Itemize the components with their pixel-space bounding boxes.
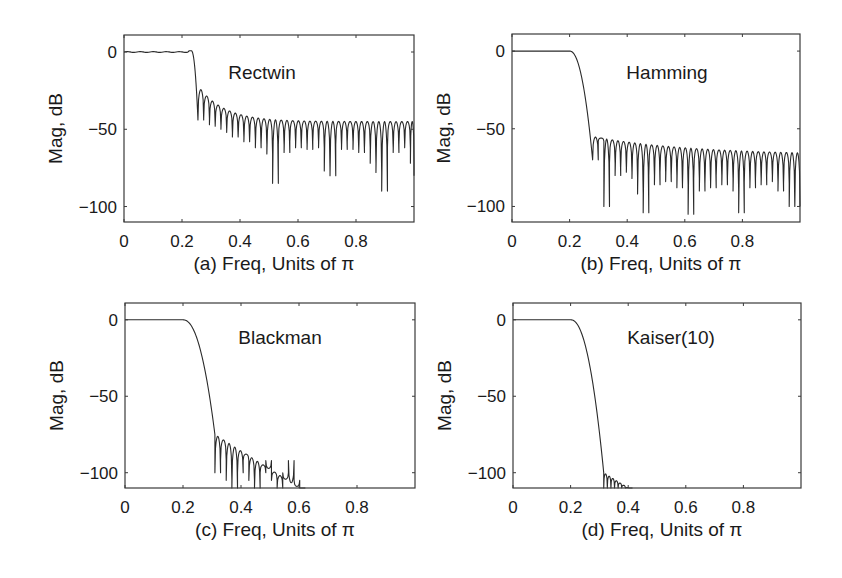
x-axis-label: (c) Freq, Units of π [195,519,355,540]
x-tick-label: 0.8 [345,498,369,517]
x-tick-label: 0.2 [559,498,583,517]
x-tick-label: 0.6 [673,232,697,251]
x-tick-label: 0.6 [286,232,310,251]
y-tick-label: −50 [476,120,505,139]
y-tick-label: −100 [467,197,505,216]
x-tick-label: 0.2 [170,232,194,251]
y-axis-label: Mag, dB [46,360,67,431]
x-tick-label: 0.6 [674,498,698,517]
x-tick-label: 0.2 [558,232,582,251]
x-tick-label: 0 [507,232,516,251]
y-tick-label: 0 [496,42,505,61]
window-label: Hamming [626,62,707,83]
x-tick-label: 0.8 [731,232,755,251]
x-axis-label: (b) Freq, Units of π [581,253,742,274]
x-tick-label: 0.8 [344,232,368,251]
y-tick-label: 0 [108,43,117,62]
y-tick-label: −100 [79,198,117,217]
y-tick-label: 0 [109,311,118,330]
x-tick-label: 0 [508,498,517,517]
x-tick-label: 0.4 [616,498,640,517]
x-tick-label: 0 [119,232,128,251]
x-axis-label: (d) Freq, Units of π [582,519,743,540]
y-tick-label: 0 [497,311,506,330]
x-tick-label: 0.4 [229,498,253,517]
y-tick-label: −50 [88,120,117,139]
x-tick-label: 0.4 [228,232,252,251]
y-tick-label: −100 [80,464,118,483]
x-tick-label: 0.6 [287,498,311,517]
window-label: Rectwin [228,62,296,83]
x-axis-label: (a) Freq, Units of π [194,253,355,274]
y-axis-label: Mag, dB [45,93,66,164]
y-tick-label: −50 [89,387,118,406]
x-tick-label: 0.2 [171,498,195,517]
window-label: Blackman [238,327,321,348]
x-tick-label: 0.8 [732,498,756,517]
figure-background [0,0,842,578]
figure: 00.20.40.60.80−50−100 Rectwin (a) Freq, … [0,0,842,578]
x-tick-label: 0 [120,498,129,517]
y-axis-label: Mag, dB [434,360,455,431]
x-tick-label: 0.4 [615,232,639,251]
y-tick-label: −100 [468,464,506,483]
y-tick-label: −50 [477,387,506,406]
window-label: Kaiser(10) [627,327,715,348]
y-axis-label: Mag, dB [433,93,454,164]
